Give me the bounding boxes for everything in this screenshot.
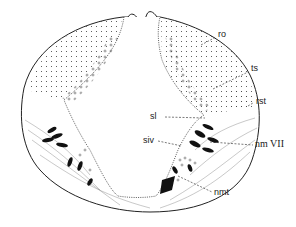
label-siv: siv: [143, 136, 154, 145]
label-ts: ts: [251, 64, 258, 73]
cross-section-figure: [0, 0, 296, 227]
label-nmt: nmt: [214, 188, 229, 197]
label-rst: rst: [256, 97, 266, 106]
label-ro: ro: [218, 30, 226, 39]
label-sl: sl: [150, 112, 157, 121]
nmt-leader: [178, 176, 212, 192]
label-nm-vii: nm VII: [255, 139, 284, 149]
